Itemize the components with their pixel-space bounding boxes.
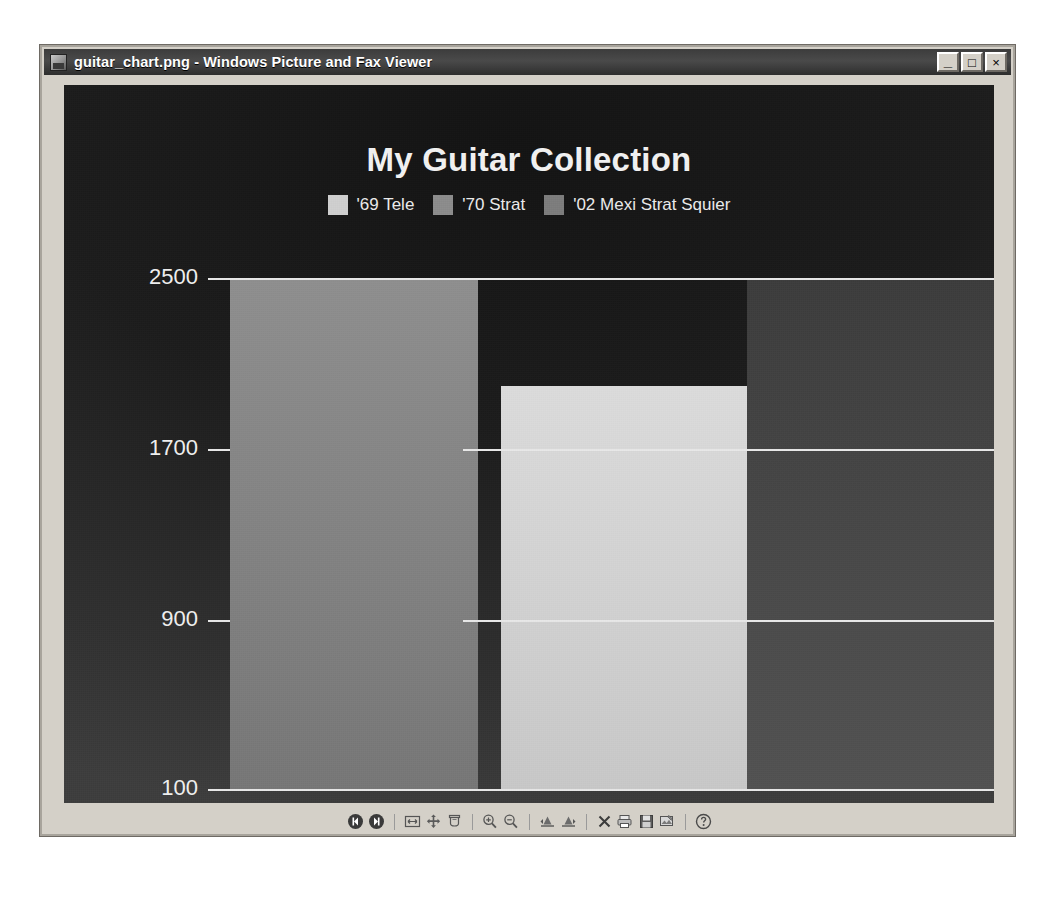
ytick-label-900: 900 xyxy=(161,606,198,632)
rotate-counterclockwise-button[interactable] xyxy=(537,811,558,832)
zoom-out-button[interactable] xyxy=(501,811,522,832)
gridline-2500-overlay xyxy=(208,278,994,280)
figure-caption xyxy=(40,900,740,916)
bar-02-mexi-strat-squier xyxy=(747,278,994,791)
start-slideshow-button[interactable] xyxy=(444,811,465,832)
bar-70-strat xyxy=(501,386,747,791)
rotate-clockwise-button[interactable] xyxy=(558,811,579,832)
maximize-icon: □ xyxy=(963,54,981,70)
toolbar-separator-5 xyxy=(685,814,686,830)
legend-item-1: '70 Strat xyxy=(433,195,525,215)
chart-legend: '69 Tele '70 Strat '02 Mexi Strat Squier xyxy=(64,195,994,215)
toolbar-separator-3 xyxy=(529,814,530,830)
toolbar-separator-2 xyxy=(472,814,473,830)
gridline-100-overlay xyxy=(208,789,994,791)
legend-label-0: '69 Tele xyxy=(357,195,415,215)
toolbar-separator-1 xyxy=(394,814,395,830)
viewer-toolbar xyxy=(64,809,994,834)
legend-label-2: '02 Mexi Strat Squier xyxy=(573,195,730,215)
legend-label-1: '70 Strat xyxy=(462,195,525,215)
next-image-button[interactable] xyxy=(366,811,387,832)
print-button[interactable] xyxy=(615,811,636,832)
zoom-in-button[interactable] xyxy=(480,811,501,832)
gridline-1700-overlay xyxy=(463,449,994,451)
delete-button[interactable] xyxy=(594,811,615,832)
ytick-label-100: 100 xyxy=(161,775,198,801)
legend-item-0: '69 Tele xyxy=(328,195,415,215)
ytick-label-2500: 2500 xyxy=(149,264,198,290)
toolbar-separator-4 xyxy=(586,814,587,830)
previous-image-button[interactable] xyxy=(345,811,366,832)
image-file-icon xyxy=(50,54,67,71)
title-bar[interactable]: guitar_chart.png - Windows Picture and F… xyxy=(44,49,1011,75)
actual-size-button[interactable] xyxy=(423,811,444,832)
gridline-900-overlay xyxy=(463,620,994,622)
legend-swatch-2 xyxy=(544,195,564,215)
legend-item-2: '02 Mexi Strat Squier xyxy=(544,195,730,215)
minimize-button[interactable]: _ xyxy=(937,52,959,72)
ytick-label-1700: 1700 xyxy=(149,435,198,461)
window-title: guitar_chart.png - Windows Picture and F… xyxy=(74,54,432,70)
picture-and-fax-viewer-window: guitar_chart.png - Windows Picture and F… xyxy=(40,45,1015,836)
guitar-collection-bar-chart: My Guitar Collection '69 Tele '70 Strat … xyxy=(64,85,994,803)
close-button[interactable]: × xyxy=(985,52,1007,72)
edit-image-button[interactable] xyxy=(657,811,678,832)
chart-title: My Guitar Collection xyxy=(64,141,994,179)
plot-area: 2500 1700 900 100 xyxy=(208,278,994,791)
maximize-button[interactable]: □ xyxy=(961,52,983,72)
legend-swatch-1 xyxy=(433,195,453,215)
best-fit-button[interactable] xyxy=(402,811,423,832)
copy-to-button[interactable] xyxy=(636,811,657,832)
minimize-icon: _ xyxy=(939,54,957,70)
window-controls: _ □ × xyxy=(937,52,1008,72)
bar-69-tele xyxy=(230,278,478,791)
help-button[interactable] xyxy=(693,811,714,832)
legend-swatch-0 xyxy=(328,195,348,215)
image-viewport[interactable]: My Guitar Collection '69 Tele '70 Strat … xyxy=(64,85,994,803)
close-icon: × xyxy=(987,54,1005,70)
